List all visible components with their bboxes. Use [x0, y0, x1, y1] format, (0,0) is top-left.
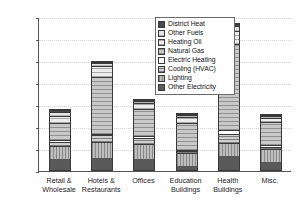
legend-item-1[interactable]: District Heat: [158, 20, 231, 29]
legend: District HeatOther FuelsHeating OilNatur…: [155, 17, 235, 95]
bar-segment-natural-gas: [92, 77, 112, 134]
legend-swatch-icon: [158, 84, 165, 91]
bar-segment-other-electricity: [134, 159, 154, 170]
x-axis-label-line: Misc.: [241, 176, 299, 185]
bar-segment-heating-oil: [92, 66, 112, 77]
bar-segment-heating-oil: [50, 116, 70, 123]
bar-segment-other-electricity: [219, 156, 239, 170]
x-axis-label-line: Buildings: [199, 185, 257, 194]
bar-segment-lighting: [177, 153, 197, 165]
bar-segment-lighting: [261, 149, 281, 163]
bar-6[interactable]: [260, 114, 282, 171]
legend-item-3[interactable]: Heating Oil: [158, 38, 231, 47]
legend-item-6[interactable]: Cooling (HVAC): [158, 65, 231, 74]
legend-item-7[interactable]: Lighting: [158, 74, 231, 83]
bar-segment-lighting: [92, 142, 112, 158]
bar-2[interactable]: [91, 61, 113, 171]
bar-1[interactable]: [49, 109, 71, 171]
bar-segment-other-electricity: [50, 159, 70, 170]
legend-swatch-icon: [158, 57, 165, 64]
bar-segment-natural-gas: [261, 122, 281, 145]
x-axis-label-6: Misc.: [241, 176, 299, 185]
legend-label: Other Fuels: [168, 30, 204, 37]
legend-label: Natural Gas: [168, 48, 204, 55]
legend-swatch-icon: [158, 66, 165, 73]
bar-segment-heating-oil: [177, 117, 197, 124]
legend-label: Other Electricity: [168, 84, 216, 91]
bar-segment-lighting: [219, 143, 239, 156]
legend-label: Lighting: [168, 75, 192, 82]
bar-segment-natural-gas: [50, 123, 70, 140]
legend-swatch-icon: [158, 30, 165, 37]
bar-segment-other-electricity: [92, 158, 112, 170]
bar-segment-other-electricity: [177, 166, 197, 170]
bar-segment-lighting: [134, 144, 154, 160]
bar-3[interactable]: [133, 99, 155, 171]
bar-segment-natural-gas: [134, 109, 154, 135]
bar-segment-lighting: [50, 146, 70, 159]
legend-item-5[interactable]: Electric Heating: [158, 56, 231, 65]
y-axis-tick: [36, 172, 39, 173]
bar-segment-natural-gas: [177, 123, 197, 149]
legend-swatch-icon: [158, 75, 165, 82]
legend-label: Heating Oil: [168, 39, 202, 46]
legend-label: Cooling (HVAC): [168, 66, 216, 73]
x-axis-label-line: Restaurants: [72, 185, 130, 194]
legend-label: Electric Heating: [168, 57, 216, 64]
stacked-bar-chart: Energy Intensity (kWh/m2/yr) 01002003004…: [0, 0, 299, 206]
legend-item-4[interactable]: Natural Gas: [158, 47, 231, 56]
legend-swatch-icon: [158, 39, 165, 46]
legend-item-2[interactable]: Other Fuels: [158, 29, 231, 38]
bar-segment-cooling-hvac: [219, 134, 239, 143]
bar-segment-cooling-hvac: [92, 135, 112, 142]
bar-4[interactable]: [176, 113, 198, 171]
legend-label: District Heat: [168, 21, 205, 28]
legend-item-8[interactable]: Other Electricity: [158, 83, 231, 92]
legend-swatch-icon: [158, 21, 165, 28]
bar-segment-other-electricity: [261, 162, 281, 170]
legend-swatch-icon: [158, 48, 165, 55]
